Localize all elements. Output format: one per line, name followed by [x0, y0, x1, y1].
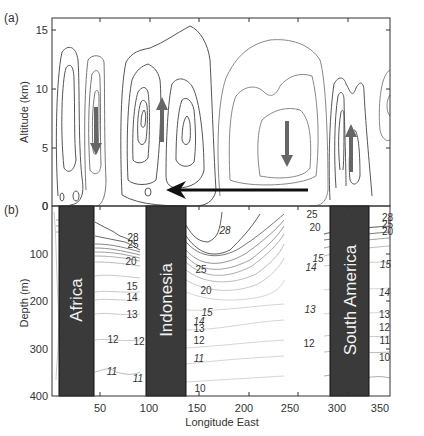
contour-label: 11	[133, 373, 143, 384]
xtick: 100	[140, 402, 158, 414]
contour-label: 11	[107, 366, 117, 377]
contour-label: 12	[303, 338, 315, 349]
x-axis-label: Longitude East	[185, 416, 258, 428]
panel-b-continents: Africa Indonesia South America	[59, 206, 369, 396]
contour-label: 25	[195, 264, 207, 275]
panel-b: (b)	[4, 200, 393, 428]
contour-label: 11	[194, 353, 204, 364]
contour-label: 20	[309, 222, 321, 233]
panel-b-label: (b)	[4, 203, 19, 217]
contour-label: 20	[200, 285, 212, 296]
contour-label: 14	[305, 262, 317, 273]
ytick: 100	[30, 248, 48, 260]
contour-label: 25	[127, 239, 139, 250]
ytick: 400	[30, 390, 48, 402]
panel-a-yticks: 0 5 10 15	[36, 24, 48, 212]
figure: (a)	[0, 0, 424, 436]
ytick: 15	[36, 24, 48, 36]
xtick: 300	[328, 402, 346, 414]
ytick: 10	[36, 83, 48, 95]
contour-label: 13	[379, 309, 391, 320]
xtick: 150	[188, 402, 206, 414]
xtick: 350	[371, 402, 389, 414]
xtick: 250	[281, 402, 299, 414]
ytick: 200	[30, 295, 48, 307]
panel-a-contours	[56, 26, 390, 206]
contour-label: 12	[379, 322, 391, 333]
contour-label: 15	[126, 281, 138, 292]
continent-label: Africa	[67, 278, 86, 322]
panel-a-label: (a)	[4, 11, 19, 25]
continent-indonesia: Indonesia	[146, 206, 186, 396]
contour-label: 20	[125, 256, 137, 267]
ytick: 5	[42, 142, 48, 154]
downward-arrow-icon	[281, 121, 293, 167]
continent-label: South America	[341, 244, 360, 355]
xtick: 50	[94, 402, 106, 414]
continent-africa: Africa	[59, 206, 94, 396]
contour-label: 20	[382, 226, 394, 237]
contour-label: 13	[304, 304, 316, 315]
contour-label: 12	[193, 335, 205, 346]
contour-label: 12	[133, 336, 145, 347]
contour-label: 11	[380, 335, 391, 346]
panel-b-ylabel: Depth (m)	[18, 279, 30, 328]
contour-label: 13	[126, 309, 138, 320]
contour-label: 13	[193, 323, 205, 334]
panel-a-frame	[52, 18, 390, 206]
contour-label: 12	[107, 334, 119, 345]
panel-b-yticks: 0 100 200 300 400	[30, 200, 48, 402]
contour-label: 14	[126, 292, 138, 303]
continent-south-america: South America	[330, 206, 369, 396]
contour-label: 25	[306, 209, 318, 220]
panel-a-ylabel: Altitude (km)	[18, 81, 30, 143]
contour-label: 14	[379, 287, 391, 298]
xtick: 200	[235, 402, 253, 414]
contour-label: 10	[194, 383, 206, 394]
contour-label: 10	[379, 352, 391, 363]
ytick: 300	[30, 343, 48, 355]
panel-a: (a)	[4, 11, 390, 212]
ytick: 0	[42, 200, 48, 212]
contour-label: 28	[218, 225, 231, 236]
continent-label: Indonesia	[157, 263, 176, 337]
x-ticks: 50 100 150 200 250 300 350	[94, 402, 389, 414]
